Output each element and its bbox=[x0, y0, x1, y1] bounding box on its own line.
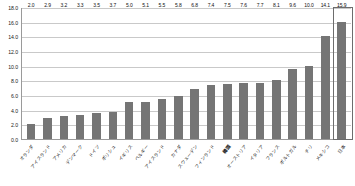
bar-value-label: 6.8 bbox=[191, 2, 198, 8]
bar-chart: 0.02.04.06.08.010.012.014.016.018.0 2.02… bbox=[0, 0, 355, 186]
bar-slot: 10.0 bbox=[301, 8, 317, 139]
x-axis-label-slot: メキシコ bbox=[317, 141, 333, 186]
y-axis-tick-label: 8.0 bbox=[11, 78, 18, 84]
y-axis: 0.02.04.06.08.010.012.014.016.018.0 bbox=[0, 8, 20, 140]
bar-series: 2.02.93.23.33.53.75.05.15.55.86.87.47.57… bbox=[22, 8, 351, 139]
bar-slot: 15.9 bbox=[334, 8, 350, 139]
x-axis-tick-label: ドイツ bbox=[87, 143, 101, 158]
bar-value-label: 9.6 bbox=[289, 2, 296, 8]
x-axis-label-slot: アイスランド bbox=[38, 141, 54, 186]
bar-slot: 7.7 bbox=[252, 8, 268, 139]
bar-slot: 5.1 bbox=[137, 8, 153, 139]
y-axis-tick-label: 12.0 bbox=[8, 49, 18, 55]
bar-slot: 2.0 bbox=[23, 8, 39, 139]
bar[interactable]: 14.1 bbox=[321, 36, 329, 139]
bar[interactable]: 8.1 bbox=[272, 80, 280, 139]
bar[interactable]: 9.6 bbox=[288, 69, 296, 139]
bar-value-label: 8.1 bbox=[273, 2, 280, 8]
x-axis-tick-label: 日本 bbox=[336, 143, 347, 154]
bar-value-label: 2.0 bbox=[28, 2, 35, 8]
bar[interactable]: 3.7 bbox=[109, 112, 117, 139]
y-axis-tick-label: 14.0 bbox=[8, 34, 18, 40]
bar-slot: 7.6 bbox=[235, 8, 251, 139]
bar[interactable]: 7.7 bbox=[256, 83, 264, 139]
x-axis-label-slot: イギリス bbox=[120, 141, 136, 186]
x-axis-label-slot: デンマーク bbox=[71, 141, 87, 186]
bar-slot: 5.0 bbox=[121, 8, 137, 139]
x-axis-label-slot: フィンランド bbox=[202, 141, 218, 186]
x-axis-tick-label: オランダ bbox=[18, 143, 35, 162]
bar[interactable]: 3.5 bbox=[92, 113, 100, 139]
bar-value-label: 5.5 bbox=[159, 2, 166, 8]
x-axis-label-slot: 日本 bbox=[334, 141, 350, 186]
y-axis-tick-label: 6.0 bbox=[11, 93, 18, 99]
bar[interactable]: 10.0 bbox=[305, 66, 313, 139]
x-axis-label-slot: チリ bbox=[301, 141, 317, 186]
y-axis-tick-label: 0.0 bbox=[11, 137, 18, 143]
y-axis-tick-label: 18.0 bbox=[8, 5, 18, 11]
bar-value-label: 15.9 bbox=[337, 2, 346, 8]
bar-value-label: 3.2 bbox=[61, 2, 68, 8]
bar-value-label: 7.4 bbox=[208, 2, 215, 8]
bar[interactable]: 5.0 bbox=[125, 102, 133, 139]
bar[interactable]: 7.5 bbox=[223, 84, 231, 139]
bar-slot: 3.2 bbox=[56, 8, 72, 139]
bar[interactable]: 2.9 bbox=[43, 118, 51, 139]
x-axis-label-slot: ポルトガル bbox=[285, 141, 301, 186]
y-axis-tick-label: 10.0 bbox=[8, 64, 18, 70]
x-axis-label-slot: ドイツ bbox=[88, 141, 104, 186]
x-axis-tick-label: チリ bbox=[303, 143, 314, 154]
bar[interactable]: 6.8 bbox=[190, 89, 198, 139]
bar-slot: 3.7 bbox=[105, 8, 121, 139]
bar-slot: 14.1 bbox=[317, 8, 333, 139]
bar[interactable]: 3.2 bbox=[60, 116, 68, 139]
bar[interactable]: 7.4 bbox=[207, 85, 215, 139]
bar-slot: 2.9 bbox=[39, 8, 55, 139]
x-axis-label-slot: ポリシュ bbox=[104, 141, 120, 186]
bar-value-label: 14.1 bbox=[321, 2, 330, 8]
bar-slot: 3.5 bbox=[88, 8, 104, 139]
bar-slot: 6.8 bbox=[186, 8, 202, 139]
bar-value-label: 10.0 bbox=[304, 2, 313, 8]
x-axis-tick-label: カナダ bbox=[169, 143, 183, 158]
bar-value-label: 7.5 bbox=[224, 2, 231, 8]
bar-slot: 3.3 bbox=[72, 8, 88, 139]
y-axis-tick-label: 4.0 bbox=[11, 108, 18, 114]
plot-area: 2.02.93.23.33.53.75.05.15.55.86.87.47.57… bbox=[21, 8, 351, 140]
x-axis-labels: オランダアイスランドアメリカデンマークドイツポリシュイギリスベルギーアイスランド… bbox=[21, 141, 351, 186]
bar-slot: 7.5 bbox=[219, 8, 235, 139]
bar-value-label: 5.8 bbox=[175, 2, 182, 8]
bar[interactable]: 2.0 bbox=[27, 124, 35, 139]
bar-value-label: 2.9 bbox=[44, 2, 51, 8]
x-axis-tick-label: 韓国 bbox=[221, 143, 232, 154]
x-axis-label-slot: イタリア bbox=[252, 141, 268, 186]
bar-slot: 5.5 bbox=[154, 8, 170, 139]
bar-value-label: 5.1 bbox=[142, 2, 149, 8]
bar[interactable]: 5.1 bbox=[141, 102, 149, 139]
bar-slot: 5.8 bbox=[170, 8, 186, 139]
bar[interactable]: 7.6 bbox=[239, 83, 247, 139]
bar-slot: 8.1 bbox=[268, 8, 284, 139]
bar[interactable]: 5.8 bbox=[174, 96, 182, 139]
bar-value-label: 3.7 bbox=[110, 2, 117, 8]
bar-slot: 9.6 bbox=[285, 8, 301, 139]
bar[interactable]: 15.9 bbox=[337, 22, 345, 139]
bar-value-label: 5.0 bbox=[126, 2, 133, 8]
bar[interactable]: 5.5 bbox=[158, 99, 166, 139]
bar-value-label: 3.3 bbox=[77, 2, 84, 8]
bar[interactable]: 3.3 bbox=[76, 115, 84, 139]
bar-value-label: 3.5 bbox=[93, 2, 100, 8]
y-axis-tick-label: 2.0 bbox=[11, 122, 18, 128]
x-axis-label-slot: アイスランド bbox=[153, 141, 169, 186]
x-axis-label-slot: オーストリア bbox=[235, 141, 251, 186]
bar-slot: 7.4 bbox=[203, 8, 219, 139]
y-axis-tick-label: 16.0 bbox=[8, 20, 18, 26]
bar-value-label: 7.6 bbox=[240, 2, 247, 8]
bar-value-label: 7.7 bbox=[257, 2, 264, 8]
